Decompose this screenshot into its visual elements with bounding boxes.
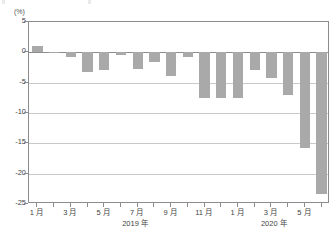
x-axis-tick <box>153 203 154 207</box>
bar <box>166 52 176 76</box>
x-axis-tick <box>53 203 54 207</box>
x-axis-tick <box>204 203 205 207</box>
x-axis-tick <box>254 203 255 207</box>
x-axis-tick <box>87 203 88 207</box>
y-axis-label-group: 50-5-10-15-20-25 <box>0 0 26 233</box>
bar <box>183 52 193 56</box>
x-axis-tick-label: 3 月 <box>63 208 76 217</box>
x-axis-tick <box>170 203 171 207</box>
x-axis-tick-label: 5 月 <box>97 208 110 217</box>
bar <box>266 52 276 77</box>
bar <box>116 52 126 55</box>
x-axis-year-label: 2019 年 <box>122 219 148 228</box>
x-axis-tick-label: 9 月 <box>163 208 176 217</box>
bar <box>99 52 109 70</box>
x-axis-tick-label: 5 月 <box>297 208 310 217</box>
y-axis-tick-label: -20 <box>2 169 26 177</box>
x-axis-tick <box>137 203 138 207</box>
x-axis-tick-label: 1 月 <box>30 208 43 217</box>
x-axis-tick <box>304 203 305 207</box>
y-axis-tick-label: -10 <box>2 108 26 116</box>
x-axis-tick <box>70 203 71 207</box>
bar <box>300 52 310 148</box>
x-axis-tick <box>220 203 221 207</box>
y-axis-tick-label: 5 <box>2 17 26 25</box>
y-axis-tick-label: -5 <box>2 78 26 86</box>
x-axis-tick <box>287 203 288 207</box>
x-axis-tick <box>103 203 104 207</box>
bar <box>149 52 159 62</box>
x-axis-tick <box>321 203 322 207</box>
y-axis-tick <box>24 112 28 113</box>
x-axis-tick-label: 11 月 <box>195 208 212 217</box>
bar <box>283 52 293 95</box>
x-axis-tick <box>36 203 37 207</box>
y-axis-tick <box>24 203 28 204</box>
x-axis-tick-label: 3 月 <box>264 208 277 217</box>
bar <box>233 52 243 98</box>
x-axis-tick <box>270 203 271 207</box>
gridline <box>29 174 328 175</box>
bar <box>133 52 143 69</box>
y-axis-tick-label: 0 <box>2 47 26 55</box>
bar <box>82 52 92 71</box>
cropped-text-remnant-mid <box>88 0 91 4</box>
y-axis-tick-label: -25 <box>2 199 26 207</box>
x-axis-tick <box>237 203 238 207</box>
x-axis-tick <box>187 203 188 207</box>
x-axis-tick-label: 7 月 <box>130 208 143 217</box>
x-axis-year-label: 2020 年 <box>261 219 287 228</box>
bar <box>32 46 42 52</box>
bar <box>316 52 326 193</box>
bar <box>216 52 226 98</box>
y-axis-tick <box>24 82 28 83</box>
y-axis-tick-label: -15 <box>2 138 26 146</box>
y-axis-tick <box>24 21 28 22</box>
bar-chart: (%) 50-5-10-15-20-25 1 月3 月5 月7 月9 月11 月… <box>0 0 336 233</box>
y-axis-tick <box>24 51 28 52</box>
bar <box>199 52 209 98</box>
y-axis-tick <box>24 142 28 143</box>
bar <box>66 52 76 56</box>
bar <box>250 52 260 70</box>
x-axis-tick <box>120 203 121 207</box>
bar <box>49 52 59 53</box>
x-axis-tick-label: 1 月 <box>230 208 243 217</box>
gridline <box>29 143 328 144</box>
y-axis-tick <box>24 173 28 174</box>
gridline <box>29 113 328 114</box>
plot-area <box>28 21 329 203</box>
